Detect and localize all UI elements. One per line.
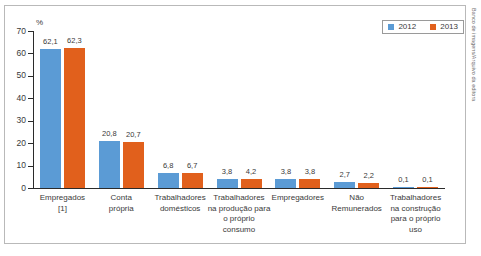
y-axis-tick [28,143,33,144]
bar-2013-6 [417,187,438,188]
y-axis-tick-label: 50 [2,71,26,80]
x-axis-label-0: Empregados[1] [31,193,94,214]
y-axis-tick [28,98,33,99]
x-axis-label-line: Não [325,193,388,204]
x-axis-label-line: para o próprio [384,214,447,225]
y-axis-tick [28,121,33,122]
legend-item-2013[interactable]: 2013 [430,23,458,31]
y-axis-tick-label: 70 [2,27,26,36]
bar-value-label: 0,1 [395,176,413,184]
x-axis-label-line: Trabalhadores [149,193,212,204]
x-axis-label-line: própria [90,204,153,215]
bar-value-label: 3,8 [277,168,295,176]
x-axis-label-line: Trabalhadores [384,193,447,204]
x-axis-label-5: NãoRemunerados [325,193,388,214]
bar-2012-2 [158,173,179,188]
y-axis-line [33,31,34,188]
x-axis-label-line: uso [384,225,447,236]
y-axis-tick [28,53,33,54]
bar-value-label: 6,8 [159,162,177,170]
x-axis-label-line: Trabalhadores [208,193,271,204]
y-axis-tick [28,31,33,32]
bar-value-label: 20,7 [124,131,142,139]
y-axis-tick [28,76,33,77]
x-axis-label-line: Empregados [31,193,94,204]
bar-2013-5 [358,183,379,188]
x-axis-label-line: [1] [31,204,94,215]
x-axis-label-line: na produção para [208,204,271,215]
x-axis-label-4: Empregadores [266,193,329,204]
y-axis-tick-label: 60 [2,49,26,58]
bar-value-label: 2,2 [360,172,378,180]
y-axis-tick [28,166,33,167]
x-axis-label-line: Remunerados [325,204,388,215]
y-axis-tick-label: 20 [2,139,26,148]
y-axis-tick [28,188,33,189]
bar-value-label: 62,1 [41,38,59,46]
x-axis-label-line: Empregadores [266,193,329,204]
x-axis-label-line: o próprio consumo [208,214,271,235]
bar-value-label: 3,8 [218,168,236,176]
x-axis-line [33,188,445,189]
legend-swatch-2012 [388,24,394,30]
bar-2013-0 [64,48,85,188]
legend-swatch-2013 [430,24,436,30]
x-axis-label-line: domésticos [149,204,212,215]
x-axis-label-3: Trabalhadoresna produção parao próprio c… [208,193,271,235]
bar-2013-4 [299,179,320,188]
bar-2013-1 [123,142,144,188]
bar-2012-4 [275,179,296,188]
legend-label-2012: 2012 [398,23,416,31]
x-axis-label-6: Trabalhadoresna construçãopara o próprio… [384,193,447,235]
image-credit-text: Banco de imagens/Arquivo da editora [471,8,477,101]
chart-legend: 2012 2013 [382,20,464,34]
bar-value-label: 3,8 [301,168,319,176]
chart-figure: % 010203040506070 62,162,320,820,76,86,7… [0,0,481,256]
y-axis-tick-label: 30 [2,116,26,125]
bar-value-label: 2,7 [336,171,354,179]
bar-value-label: 6,7 [183,162,201,170]
x-axis-label-line: Conta [90,193,153,204]
bar-2013-2 [182,173,203,188]
bar-value-label: 4,2 [242,168,260,176]
legend-label-2013: 2013 [440,23,458,31]
bar-2013-3 [241,179,262,188]
x-axis-label-1: Contaprópria [90,193,153,214]
y-axis-tick-label: 10 [2,161,26,170]
bar-2012-3 [217,179,238,188]
y-axis-tick-label: 40 [2,94,26,103]
y-axis-tick-label: 0 [2,184,26,193]
bar-value-label: 62,3 [65,37,83,45]
bar-2012-1 [99,141,120,188]
bar-value-label: 20,8 [100,130,118,138]
bar-value-label: 0,1 [419,176,437,184]
bar-2012-5 [334,182,355,188]
image-credit: Banco de imagens/Arquivo da editora [467,6,481,206]
bar-2012-6 [393,187,414,188]
x-axis-label-2: Trabalhadoresdomésticos [149,193,212,214]
legend-item-2012[interactable]: 2012 [388,23,416,31]
x-axis-label-line: na construção [384,204,447,215]
bar-2012-0 [40,49,61,188]
y-axis-unit-label: % [36,18,43,27]
